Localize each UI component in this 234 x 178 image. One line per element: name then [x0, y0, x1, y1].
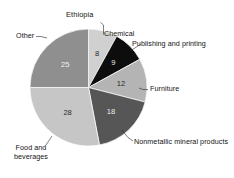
pie-chart: 8912182825 Ethiopia Chemical Publishing …	[0, 0, 234, 178]
pie-slice-value-publishing-and-printing: 9	[111, 58, 115, 67]
slice-label-food-and-beverages: Food and beverages	[7, 144, 55, 161]
pie-slice-group	[30, 29, 147, 146]
slice-label-furniture: Furniture	[150, 85, 179, 94]
pie-slice-value-furniture: 12	[117, 79, 125, 88]
slice-label-chemical: Chemical	[104, 30, 134, 39]
pie-slice-value-other: 25	[61, 60, 69, 69]
slice-label-nonmetallic-mineral-products: Nonmetallic mineral products	[134, 138, 228, 147]
slice-label-food-and-beverages-line2: beverages	[14, 152, 48, 161]
leader-line-other	[36, 37, 47, 39]
slice-label-publishing-and-printing: Publishing and printing	[132, 40, 206, 49]
pie-slice-value-chemical: 8	[95, 49, 99, 58]
leader-line-nonmetallic-mineral-products	[122, 130, 133, 141]
slice-label-other: Other	[16, 32, 34, 41]
page-title: Ethiopia	[66, 10, 94, 19]
pie-slice-value-nonmetallic-mineral-products: 18	[107, 107, 115, 116]
pie-slice-value-food-and-beverages: 28	[63, 108, 71, 117]
pie-slice-other[interactable]	[30, 29, 89, 88]
